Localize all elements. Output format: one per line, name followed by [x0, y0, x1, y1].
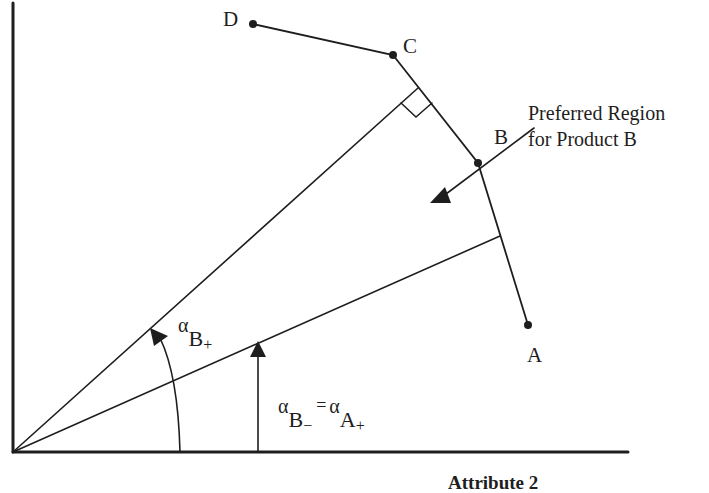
alpha-superscript: −	[303, 417, 312, 434]
alpha-subscript: B	[188, 326, 203, 351]
callout-line-2: for Product B	[528, 126, 665, 152]
label-point-C: C	[403, 36, 417, 57]
alpha-superscript-2: +	[356, 417, 365, 434]
arc-arrowhead-icon	[150, 328, 168, 346]
alpha-symbol-2: α	[329, 395, 339, 417]
vertical-arrowhead-icon	[250, 341, 266, 357]
callout-line-1: Preferred Region	[528, 100, 665, 126]
alpha-subscript: B	[288, 407, 303, 432]
alpha-symbol: α	[278, 395, 288, 417]
alpha-subscript-2: A	[340, 407, 356, 432]
alpha-symbol: α	[178, 314, 188, 336]
right-angle-marker	[401, 103, 432, 117]
callout-arrowhead-icon	[430, 187, 451, 203]
alpha-superscript: +	[203, 336, 212, 353]
angle-arc-upper	[160, 338, 180, 452]
angle-label-lower: αB−=αA+	[278, 395, 365, 417]
efficient-frontier	[253, 24, 528, 325]
angle-label-upper: αB+	[178, 314, 212, 336]
point-C	[389, 51, 397, 59]
preferred-region-callout: Preferred Region for Product B	[528, 100, 665, 152]
label-point-B: B	[494, 127, 508, 148]
label-point-A: A	[527, 345, 542, 366]
equals-sign: =	[316, 395, 326, 415]
point-D	[249, 20, 257, 28]
x-axis-title: Attribute 2	[448, 472, 538, 493]
point-A	[524, 321, 532, 329]
point-B	[474, 159, 482, 167]
label-point-D: D	[223, 9, 238, 30]
